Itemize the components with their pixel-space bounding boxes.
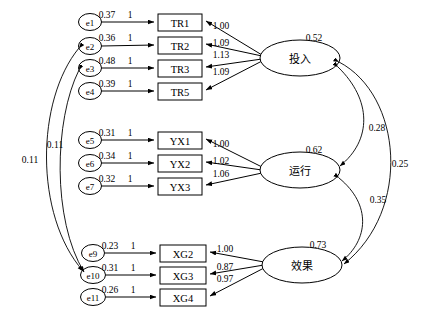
path-e2-to-tr2 bbox=[102, 45, 155, 46]
covariance-path-e2-e10 bbox=[46, 48, 83, 271]
latent-variance-effect: 0.73 bbox=[310, 240, 327, 250]
error-label-e1: e1 bbox=[86, 18, 95, 28]
loading-label-tr3: 1.13 bbox=[213, 50, 230, 60]
latent-variance-investment: 0.52 bbox=[306, 33, 323, 43]
error-label-e2: e2 bbox=[86, 42, 95, 52]
error-label-e7: e7 bbox=[86, 182, 95, 192]
latent-label-operation: 运行 bbox=[289, 165, 311, 177]
covariance-label-investment-effect: 0.25 bbox=[392, 159, 409, 169]
error-path-coef-e6: 1 bbox=[128, 151, 133, 161]
error-path-coef-e1: 1 bbox=[128, 10, 133, 20]
loading-label-yx2: 1.02 bbox=[213, 156, 230, 166]
error-path-coef-e10: 1 bbox=[131, 263, 136, 273]
indicator-label-tr5: TR5 bbox=[171, 87, 190, 98]
error-path-coef-e4: 1 bbox=[128, 79, 133, 89]
error-variance-e4: 0.39 bbox=[99, 79, 116, 89]
indicator-label-tr3: TR3 bbox=[171, 64, 190, 75]
covariance-label-e2-e10: 0.11 bbox=[22, 155, 39, 165]
error-path-coef-e3: 1 bbox=[128, 56, 133, 66]
loading-label-xg4: 0.97 bbox=[217, 274, 234, 284]
error-variance-e11: 0.26 bbox=[102, 285, 119, 295]
indicator-label-yx3: YX3 bbox=[170, 182, 190, 193]
latent-factors: 投入 运行 效果 0.52 0.62 0.73 bbox=[260, 33, 342, 283]
loading-label-tr2: 1.09 bbox=[213, 38, 230, 48]
indicator-label-xg4: XG4 bbox=[173, 293, 194, 304]
error-path-coef-e9: 1 bbox=[131, 241, 136, 251]
indicator-label-xg2: XG2 bbox=[173, 249, 193, 260]
error-label-e3: e3 bbox=[86, 64, 95, 74]
indicator-label-xg3: XG3 bbox=[173, 271, 193, 282]
error-path-coef-e7: 1 bbox=[128, 174, 133, 184]
measurement-block-investment: e1 e2 e3 e4 TR1 TR2 TR3 TR5 0.37 0.36 0.… bbox=[79, 10, 263, 100]
covariance-path-investment-effect bbox=[339, 62, 391, 264]
indicator-label-tr1: TR1 bbox=[171, 18, 190, 29]
error-variance-e2: 0.36 bbox=[99, 33, 116, 43]
sem-path-diagram: e1 e2 e3 e4 TR1 TR2 TR3 TR5 0.37 0.36 0.… bbox=[0, 0, 428, 324]
error-variance-e7: 0.32 bbox=[99, 174, 116, 184]
loading-label-xg2: 1.00 bbox=[217, 244, 234, 254]
error-variance-e5: 0.31 bbox=[99, 128, 116, 138]
covariance-path-operation-effect bbox=[339, 178, 363, 261]
error-variance-e6: 0.34 bbox=[99, 151, 116, 161]
error-label-e11: e11 bbox=[87, 293, 100, 303]
error-variance-e1: 0.37 bbox=[99, 10, 116, 20]
error-variance-e3: 0.48 bbox=[99, 56, 116, 66]
error-label-e5: e5 bbox=[86, 136, 95, 146]
latent-label-investment: 投入 bbox=[289, 52, 311, 65]
loading-label-yx3: 1.06 bbox=[213, 169, 230, 179]
latent-label-effect: 效果 bbox=[291, 259, 313, 272]
error-label-e6: e6 bbox=[86, 159, 95, 169]
error-label-e10: e10 bbox=[87, 271, 100, 281]
loading-label-tr1: 1.00 bbox=[213, 21, 230, 31]
loading-label-yx1: 1.00 bbox=[213, 139, 230, 149]
indicator-label-yx2: YX2 bbox=[170, 159, 190, 170]
latent-covariances: 0.28 0.35 0.25 bbox=[338, 62, 409, 264]
measurement-block-operation: e5 e6 e7 YX1 YX2 YX3 0.31 0.34 0.32 1 1 … bbox=[79, 128, 263, 195]
indicator-label-tr2: TR2 bbox=[171, 41, 190, 52]
covariance-path-investment-operation bbox=[338, 67, 364, 166]
error-variance-e10: 0.31 bbox=[102, 263, 119, 273]
error-label-e4: e4 bbox=[86, 87, 95, 97]
error-label-e9: e9 bbox=[89, 249, 98, 259]
error-path-coef-e11: 1 bbox=[131, 285, 136, 295]
error-variance-e9: 0.23 bbox=[102, 241, 119, 251]
error-path-coef-e2: 1 bbox=[128, 33, 133, 43]
measurement-block-effect: e9 e10 e11 XG2 XG3 XG4 0.23 0.31 0.26 1 … bbox=[81, 241, 265, 306]
loading-label-xg3: 0.87 bbox=[217, 262, 234, 272]
latent-variance-operation: 0.62 bbox=[306, 145, 323, 155]
error-path-coef-e5: 1 bbox=[128, 128, 133, 138]
indicator-label-yx1: YX1 bbox=[170, 136, 190, 147]
error-covariances: 0.11 0.11 bbox=[22, 48, 84, 272]
loading-label-tr5: 1.09 bbox=[213, 67, 230, 77]
covariance-label-e3-e10: 0.11 bbox=[47, 140, 64, 150]
covariance-label-investment-operation: 0.28 bbox=[369, 123, 386, 133]
covariance-label-operation-effect: 0.35 bbox=[370, 195, 387, 205]
